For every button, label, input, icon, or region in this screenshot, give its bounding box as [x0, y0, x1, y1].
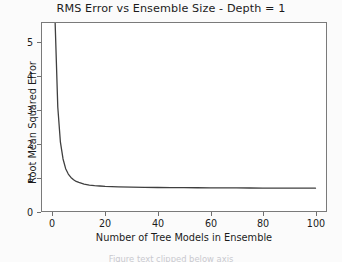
xtick-label-0: 0 [49, 218, 55, 229]
clipped-caption: Figure text clipped below axis [0, 254, 342, 262]
ytick-3 [37, 110, 41, 111]
chart-title: RMS Error vs Ensemble Size - Depth = 1 [0, 2, 342, 15]
xtick-label-100: 100 [307, 218, 325, 229]
xtick-label-40: 40 [152, 218, 164, 229]
x-axis-label: Number of Tree Models in Ensemble [41, 232, 327, 243]
xtick-label-20: 20 [99, 218, 111, 229]
xtick-20 [105, 212, 106, 216]
xtick-60 [211, 212, 212, 216]
y-axis-label: Root Mean Squared Error [27, 28, 38, 218]
plot-area [41, 22, 327, 212]
xtick-label-80: 80 [257, 218, 269, 229]
rmse-curve [42, 23, 326, 211]
xtick-100 [316, 212, 317, 216]
xtick-40 [158, 212, 159, 216]
xtick-0 [52, 212, 53, 216]
ytick-1 [37, 178, 41, 179]
ytick-5 [37, 42, 41, 43]
xtick-80 [263, 212, 264, 216]
ytick-4 [37, 76, 41, 77]
ytick-2 [37, 144, 41, 145]
ytick-0 [37, 212, 41, 213]
xtick-label-60: 60 [205, 218, 217, 229]
chart-figure: RMS Error vs Ensemble Size - Depth = 1 0… [0, 0, 342, 262]
